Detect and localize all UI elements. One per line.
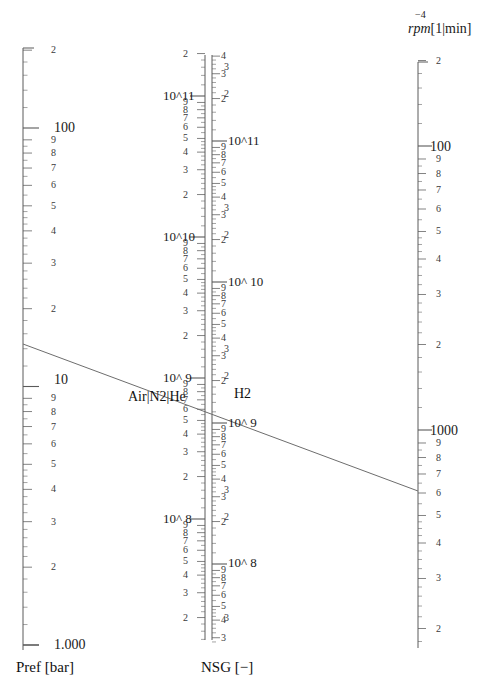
scale-minor-label: 9: [51, 393, 56, 403]
scale-minor-label: 6: [51, 439, 56, 449]
nsg-left-axis-group: [190, 54, 205, 640]
scale-minor-label: 5: [221, 601, 226, 611]
scale-minor-label: 8: [436, 169, 441, 179]
scale-minor-label: 9: [436, 154, 441, 164]
scale-minor-label: 9: [183, 379, 188, 389]
scale-minor-label: 4: [183, 570, 188, 580]
scale-minor-label: 7: [51, 422, 56, 432]
scale-minor-label: 4: [221, 192, 226, 202]
scale-minor-label: 3: [183, 165, 188, 175]
scale-minor-label: 6: [221, 449, 226, 459]
scale-minor-label: 3: [436, 289, 441, 299]
scale-minor-label: 6: [221, 590, 226, 600]
scale-minor-label: 5: [183, 556, 188, 566]
scale-minor-label: 9: [221, 142, 226, 152]
scale-minor-label: 5: [51, 201, 56, 211]
rpm-label-100: 100: [430, 140, 451, 154]
scale-minor-label: 3: [224, 344, 229, 354]
scale-minor-label: 2: [183, 190, 188, 200]
scale-minor-label: 5: [221, 178, 226, 188]
scale-minor-label: 9: [221, 424, 226, 434]
scale-minor-label: 4: [51, 226, 56, 236]
scale-minor-label: 6: [183, 122, 188, 132]
scale-minor-label: 5: [183, 274, 188, 284]
scale-minor-label: 4: [221, 474, 226, 484]
rpm-axis-title: rpm[1|min]: [408, 22, 471, 36]
scale-minor-label: 2: [183, 613, 188, 623]
scale-minor-label: 8: [51, 407, 56, 417]
nsg-right-label-1e10: 10^ 10: [228, 275, 263, 288]
nomogram-figure: 100 10 1.000 Pref [bar] 2345678923456789…: [0, 0, 497, 693]
scale-minor-label: 3: [224, 485, 229, 495]
scale-minor-label: 4: [183, 288, 188, 298]
scale-minor-label: 8: [436, 453, 441, 463]
nsg-left-label-1e11: 10^11: [163, 89, 195, 102]
scale-minor-label: 6: [436, 488, 441, 498]
scale-minor-label: 6: [436, 204, 441, 214]
scale-minor-label: 5: [183, 133, 188, 143]
scale-minor-label: 5: [183, 415, 188, 425]
scale-minor-label: 9: [51, 135, 56, 145]
scale-minor-label: 2: [51, 562, 56, 572]
nsg-right-label-1e11: 10^11: [228, 134, 260, 147]
pref-label-100: 100: [54, 121, 75, 135]
scale-minor-label: 5: [221, 319, 226, 329]
scale-minor-label: 2: [183, 331, 188, 341]
nsg-right-label-1e8: 10^ 8: [228, 556, 257, 569]
rpm-title-unit: [1|min]: [431, 21, 472, 36]
scale-minor-label: 3: [183, 588, 188, 598]
scale-minor-label: 2: [224, 230, 229, 240]
scale-minor-label: 6: [221, 167, 226, 177]
scale-minor-label: 7: [436, 185, 441, 195]
scale-minor-label: 6: [51, 180, 56, 190]
nsg-right-label-1e9: 10^ 9: [228, 416, 257, 429]
scale-minor-label: 3: [221, 633, 226, 643]
scale-minor-label: 3: [224, 613, 229, 623]
gas-group-label-air-n2-he: Air|N2|He: [128, 390, 186, 404]
scale-minor-label: 4: [221, 333, 226, 343]
scale-minor-label: 7: [51, 163, 56, 173]
scale-minor-label: 4: [183, 429, 188, 439]
scale-minor-label: 2: [224, 371, 229, 381]
scale-minor-label: 9: [183, 97, 188, 107]
nomogram-canvas: [0, 0, 497, 693]
scale-minor-label: 4: [221, 51, 226, 61]
scale-minor-label: 9: [183, 520, 188, 530]
pref-axis-title: Pref [bar]: [16, 660, 74, 675]
scale-minor-label: 3: [224, 203, 229, 213]
scale-minor-label: 9: [221, 283, 226, 293]
scale-minor-label: 9: [221, 565, 226, 575]
scale-minor-label: 3: [183, 447, 188, 457]
scale-minor-label: 3: [51, 258, 56, 268]
scale-minor-label: 2: [224, 89, 229, 99]
scale-minor-label: 9: [436, 438, 441, 448]
scale-minor-label: 6: [183, 545, 188, 555]
rpm-label-1000: 1000: [430, 424, 458, 438]
scale-minor-label: 6: [183, 404, 188, 414]
scale-minor-label: 8: [51, 148, 56, 158]
scale-minor-label: 2: [436, 624, 441, 634]
scale-minor-label: 2: [51, 304, 56, 314]
scale-minor-label: 4: [183, 147, 188, 157]
scale-minor-label: 2: [51, 45, 56, 55]
scale-minor-label: 2: [436, 56, 441, 66]
scale-minor-label: 2: [436, 340, 441, 350]
scale-minor-label: 5: [51, 459, 56, 469]
pref-label-10: 10: [54, 373, 68, 387]
scale-minor-label: 3: [436, 573, 441, 583]
scale-minor-label: 6: [221, 308, 226, 318]
pref-label-1: 1.000: [54, 638, 86, 652]
nsg-left-label-1e10: 10^10: [163, 230, 195, 243]
scale-minor-label: 4: [436, 254, 441, 264]
scale-minor-label: 6: [183, 263, 188, 273]
scale-minor-label: 5: [436, 510, 441, 520]
rpm-exponent: −4: [415, 10, 426, 20]
gas-group-label-h2: H2: [234, 387, 251, 401]
scale-minor-label: 2: [183, 49, 188, 59]
scale-minor-label: 5: [436, 226, 441, 236]
rpm-title-name: rpm: [408, 21, 431, 36]
scale-minor-label: 7: [436, 469, 441, 479]
scale-minor-label: 3: [183, 306, 188, 316]
scale-minor-label: 5: [221, 460, 226, 470]
scale-minor-label: 4: [436, 538, 441, 548]
